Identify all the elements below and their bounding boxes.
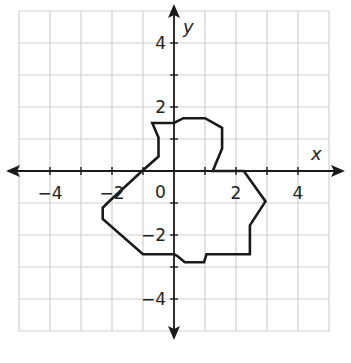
y-axis-label: y	[182, 16, 194, 37]
y-tick-label: −4	[141, 289, 166, 309]
axes	[6, 4, 345, 340]
x-axis-label: x	[310, 143, 322, 164]
y-tick-label: 2	[155, 97, 166, 117]
y-tick-label: −2	[141, 225, 166, 245]
origin-label: 0	[155, 182, 166, 202]
coordinate-plane: −4−22442−2−4 x y 0	[0, 0, 351, 363]
y-tick-label: 4	[155, 33, 166, 53]
x-tick-label: 2	[231, 183, 242, 203]
x-tick-label: 4	[293, 183, 304, 203]
x-tick-label: −4	[37, 183, 62, 203]
